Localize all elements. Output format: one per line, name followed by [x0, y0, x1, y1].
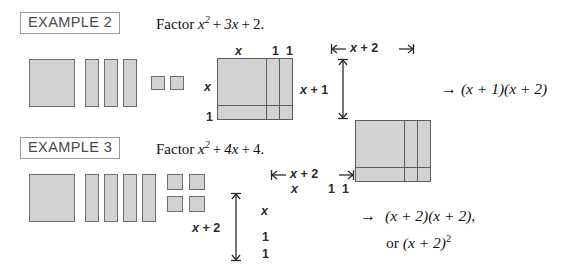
- model-b-left-dimension: [336, 58, 350, 120]
- result-factors: (x + 1)(x + 2): [461, 80, 547, 97]
- problem-lead: Factor: [156, 141, 194, 157]
- tile-x: [104, 174, 118, 222]
- model-a-top-label-1a: 1: [272, 45, 279, 58]
- tile-unit: [167, 174, 183, 190]
- problem-plus-1: +: [213, 141, 221, 157]
- tile-unit: [189, 196, 205, 212]
- tile-x: [85, 174, 99, 222]
- example-3-problem: Factor x2+4x+4.: [156, 139, 264, 158]
- problem-term1-exponent: 2: [205, 139, 210, 150]
- left-dimension-arrow-icon: [229, 192, 243, 262]
- problem-plus-1: +: [213, 16, 221, 32]
- model-top-label-1a: 1: [328, 183, 335, 196]
- model-a-top-label-x: x: [235, 45, 242, 58]
- problem-plus-2: +: [241, 141, 249, 157]
- model-b-left-dimension-label: x + 1: [300, 84, 328, 97]
- tile-x: [104, 59, 118, 107]
- result-second-line-prefix: or: [386, 234, 399, 251]
- example-3-top-dimension-label: x + 2: [290, 168, 318, 181]
- model-divider-horizontal: [218, 105, 292, 106]
- tile-unit: [151, 76, 165, 90]
- result-second-line: or (x + 2)2: [386, 233, 475, 252]
- problem-lead: Factor: [156, 16, 194, 32]
- example-3-badge: EXAMPLE 3: [20, 137, 120, 159]
- example-2-area-model-b: [355, 120, 431, 182]
- example-3-left-dimension-label: x + 2: [192, 222, 220, 235]
- result-factors: (x + 2)(x + 2),: [385, 207, 475, 225]
- model-divider-vertical: [279, 59, 280, 119]
- problem-plus-2: +: [241, 16, 249, 32]
- model-a-left-label-x: x: [204, 81, 211, 94]
- problem-period: .: [260, 16, 264, 32]
- result-arrow-icon: →: [441, 80, 457, 97]
- problem-term1-exponent: 2: [205, 14, 210, 25]
- problem-period: .: [260, 141, 264, 157]
- example-2-problem: Factor x2+3x+2.: [156, 14, 264, 33]
- model-left-label-1a: 1: [262, 231, 269, 244]
- model-left-label-x: x: [261, 205, 268, 218]
- tile-x: [142, 174, 156, 222]
- tile-unit: [170, 76, 184, 90]
- problem-term1-base: x: [198, 16, 205, 32]
- problem-term2: 4x: [224, 141, 238, 157]
- result-second-line-exponent: 2: [446, 233, 451, 244]
- model-left-label-1b: 1: [262, 248, 269, 261]
- result-arrow-icon: →: [360, 207, 376, 225]
- model-top-label-1b: 1: [342, 183, 349, 196]
- tile-unit: [167, 196, 183, 212]
- model-b-top-dimension: x + 2: [330, 42, 415, 58]
- problem-term2: 3x: [224, 16, 238, 32]
- model-divider-vertical: [266, 59, 267, 119]
- model-divider-vertical: [404, 121, 405, 181]
- tile-x: [85, 59, 99, 107]
- tile-unit: [189, 174, 205, 190]
- model-divider-horizontal: [356, 167, 430, 168]
- example-3-left-dimension: [229, 192, 243, 262]
- example-2-badge: EXAMPLE 2: [20, 12, 120, 34]
- tile-x: [123, 59, 137, 107]
- model-top-label-x: x: [291, 183, 298, 196]
- tile-x-squared: [29, 174, 75, 222]
- model-divider-vertical: [417, 121, 418, 181]
- model-b-top-dimension-label: x + 2: [350, 42, 378, 55]
- problem-term1-base: x: [198, 141, 205, 157]
- result-second-line-base: (x + 2): [403, 234, 446, 251]
- example-3-result: → (x + 2)(x + 2), or (x + 2)2: [360, 207, 475, 252]
- example-2-area-model-a: [217, 58, 293, 120]
- model-a-top-label-1b: 1: [286, 45, 293, 58]
- tile-x: [123, 174, 137, 222]
- model-a-left-label-1: 1: [206, 111, 213, 124]
- tile-x-squared: [29, 59, 75, 107]
- example-2-result: → (x + 1)(x + 2): [441, 80, 547, 98]
- left-dimension-arrow-icon: [336, 58, 350, 120]
